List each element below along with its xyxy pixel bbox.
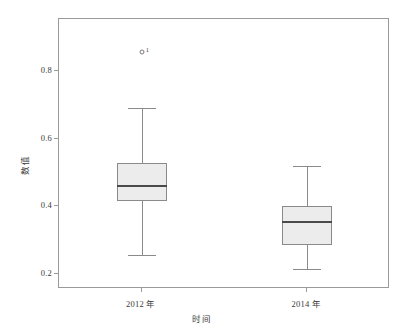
box-plot-group[interactable] [59,19,388,287]
lower-whisker-cap [293,269,321,270]
x-axis-tick-mark [141,288,142,292]
y-axis-tick-label: 0.4 [26,200,52,210]
plot-area: 1 [58,18,389,288]
median-line [282,221,332,223]
box-rect[interactable] [282,206,332,245]
x-axis-tick-label: 2012 年 [126,297,155,309]
box-plot-figure: 数值 0.20.40.60.8 1 2012 年2014 年 时间 [0,0,403,330]
y-axis-label: 数值 [18,155,30,175]
y-axis-tick-label: 0.8 [26,65,52,75]
y-axis-tick-label: 0.6 [26,133,52,143]
x-axis-tick-mark [306,288,307,292]
y-axis-tick-label: 0.2 [26,268,52,278]
lower-whisker-line [307,245,308,269]
upper-whisker-cap [293,166,321,167]
x-axis-label: 时间 [0,312,403,324]
x-axis-tick-label: 2014 年 [292,297,321,309]
upper-whisker-line [307,166,308,207]
